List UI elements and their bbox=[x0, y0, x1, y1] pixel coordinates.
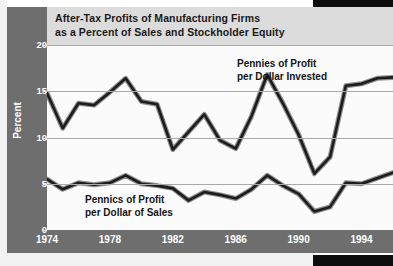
x-tick-label: 1974 bbox=[27, 234, 67, 245]
scan-artifact-bottom bbox=[313, 255, 393, 266]
y-tick-label: 15 bbox=[13, 86, 47, 96]
scan-margin-bottom bbox=[0, 252, 313, 266]
x-tick-label: 1994 bbox=[342, 234, 382, 245]
series-line-equity-highlight bbox=[47, 75, 393, 174]
scan-margin-left bbox=[0, 0, 7, 266]
y-tick-label: 5 bbox=[13, 179, 47, 189]
gridline bbox=[47, 184, 393, 185]
gridline bbox=[47, 45, 393, 46]
x-tick-label: 1978 bbox=[90, 234, 130, 245]
y-tick-label: 20 bbox=[13, 40, 47, 50]
y-axis: Percent 20 15 10 5 0 bbox=[7, 7, 47, 253]
y-tick-label: 10 bbox=[13, 133, 47, 143]
x-tick-label: 1982 bbox=[153, 234, 193, 245]
x-tick-label: 1986 bbox=[216, 234, 256, 245]
series-line-equity bbox=[47, 75, 393, 174]
x-tick-label: 1990 bbox=[279, 234, 319, 245]
chart-figure: After-Tax Profits of Manufacturing Firms… bbox=[0, 0, 393, 266]
chart-panel: After-Tax Profits of Manufacturing Firms… bbox=[7, 7, 393, 253]
gridline bbox=[47, 91, 393, 92]
page-title: After-Tax Profits of Manufacturing Firms… bbox=[55, 11, 385, 39]
annotation-sales: Pennics of Profit per Dollar of Sales bbox=[85, 193, 173, 219]
gridline bbox=[47, 138, 393, 139]
title-strip: After-Tax Profits of Manufacturing Firms… bbox=[47, 7, 393, 45]
annotation-equity: Pennies of Profit per Dollar Invested bbox=[237, 57, 327, 83]
x-axis: 1974 1978 1982 1986 1990 1994 199 bbox=[47, 230, 393, 253]
plot-area: Pennies of Profit per Dollar Invested Pe… bbox=[47, 45, 393, 230]
